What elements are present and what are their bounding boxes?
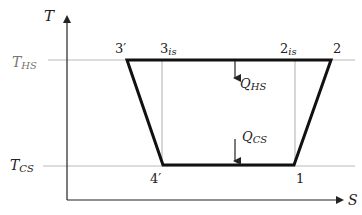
point-4prime-label: 4′ bbox=[150, 171, 161, 186]
point-3prime-label: 3′ bbox=[115, 41, 126, 56]
point-3is-label: 3is bbox=[160, 41, 177, 57]
point-2is-label: 2is bbox=[280, 41, 297, 57]
ts-diagram: T S THS TCS 3′ 3is 2is 2 4′ 1 QHS QCS bbox=[0, 0, 362, 215]
t-cs-label: TCS bbox=[10, 157, 34, 174]
x-axis-label: S bbox=[348, 192, 358, 208]
point-1-label: 1 bbox=[296, 171, 304, 186]
q-hs-label: QHS bbox=[240, 76, 266, 92]
y-axis-label: T bbox=[44, 7, 55, 25]
t-hs-label: THS bbox=[12, 54, 37, 71]
q-cs-label: QCS bbox=[242, 129, 267, 145]
cycle-path bbox=[127, 60, 331, 165]
point-2-label: 2 bbox=[333, 41, 341, 56]
